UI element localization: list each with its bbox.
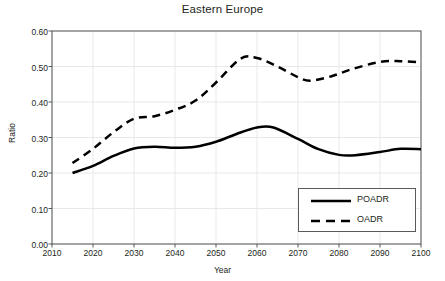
legend-item-poadr[interactable]: POADR bbox=[299, 191, 417, 211]
data-series-layer bbox=[73, 56, 422, 173]
legend-line-solid-icon bbox=[309, 191, 353, 211]
series-line-poadr bbox=[73, 126, 422, 173]
legend-label: POADR bbox=[357, 194, 389, 204]
series-line-oadr bbox=[73, 56, 422, 163]
legend-item-oadr[interactable]: OADR bbox=[299, 211, 417, 231]
legend-line-dashed-icon bbox=[309, 211, 353, 231]
plot-area bbox=[0, 0, 445, 281]
legend-label: OADR bbox=[357, 214, 383, 224]
chart-legend[interactable]: POADR OADR bbox=[298, 188, 416, 232]
chart-figure: Eastern Europe Ratio Year 0.00 0.10 0.20… bbox=[0, 0, 445, 281]
